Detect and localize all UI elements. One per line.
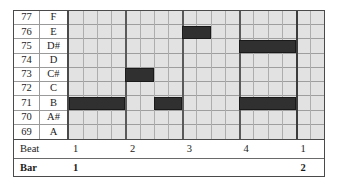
- pitch-row-D: 74D: [14, 54, 67, 68]
- beat-tick-label: 1: [300, 144, 305, 155]
- note-block[interactable]: [125, 68, 153, 81]
- pitch-midi-number: 73: [14, 68, 40, 81]
- grid-line-col-10: [211, 11, 212, 139]
- pitch-row-B: 71B: [14, 96, 67, 110]
- pitch-note-name: A#: [40, 111, 67, 124]
- pitch-row-Asharp: 70A#: [14, 111, 67, 125]
- pitch-midi-number: 77: [14, 11, 40, 24]
- note-block[interactable]: [239, 40, 296, 53]
- pitch-midi-number: 71: [14, 96, 40, 109]
- bar-ruler-row: Bar 12: [14, 158, 324, 177]
- pitch-midi-number: 76: [14, 25, 40, 38]
- note-block[interactable]: [239, 97, 296, 110]
- grid-line-col-12: [239, 11, 241, 139]
- timeline-ruler: Beat 12341 Bar 12: [14, 139, 324, 176]
- grid-line-col-11: [225, 11, 226, 139]
- grid-line-col-3: [111, 11, 112, 139]
- grid-line-col-1: [83, 11, 84, 139]
- pitch-note-name: D#: [40, 39, 67, 52]
- beat-tick-label: 1: [73, 144, 78, 155]
- pitch-midi-number: 70: [14, 111, 40, 124]
- grid-line-col-6: [154, 11, 155, 139]
- grid-line-col-2: [97, 11, 98, 139]
- pitch-note-name: E: [40, 25, 67, 38]
- pitch-midi-number: 74: [14, 54, 40, 67]
- beat-tick-label: 4: [244, 144, 249, 155]
- pitch-note-name: C: [40, 82, 67, 95]
- pitch-note-name: D: [40, 54, 67, 67]
- grid-line-col-15: [282, 11, 283, 139]
- pitch-row-E: 76E: [14, 25, 67, 39]
- pitch-row-F: 77F: [14, 11, 67, 25]
- bar-tick-label: 1: [73, 163, 78, 174]
- pitch-note-name: A: [40, 125, 67, 139]
- piano-roll-figure: 77F76E75D#74D73C#72C71B70A#69A Beat 1234…: [0, 0, 340, 189]
- pitch-row-C: 72C: [14, 82, 67, 96]
- pitch-midi-number: 69: [14, 125, 40, 139]
- grid-line-col-16: [296, 11, 298, 139]
- pitch-midi-number: 72: [14, 82, 40, 95]
- pitch-row-A: 69A: [14, 125, 67, 139]
- grid-line-col-14: [268, 11, 269, 139]
- piano-roll-frame: 77F76E75D#74D73C#72C71B70A#69A Beat 1234…: [13, 10, 325, 177]
- note-block[interactable]: [154, 97, 182, 110]
- beat-tick-label: 3: [187, 144, 192, 155]
- pitch-note-name: C#: [40, 68, 67, 81]
- grid-line-col-7: [168, 11, 169, 139]
- bar-tick-label: 2: [300, 163, 305, 174]
- grid-line-col-13: [253, 11, 254, 139]
- note-block[interactable]: [182, 26, 210, 39]
- pitch-row-Csharp: 73C#: [14, 68, 67, 82]
- bar-row-label: Bar: [20, 163, 37, 174]
- grid-line-col-17: [310, 11, 311, 139]
- beat-row-label: Beat: [20, 144, 39, 155]
- pitch-note-name: F: [40, 11, 67, 24]
- beat-ruler-row: Beat 12341: [14, 140, 324, 158]
- pitch-label-column: 77F76E75D#74D73C#72C71B70A#69A: [14, 11, 67, 139]
- pitch-row-Dsharp: 75D#: [14, 39, 67, 53]
- pitch-midi-number: 75: [14, 39, 40, 52]
- beat-tick-label: 2: [130, 144, 135, 155]
- note-grid[interactable]: [69, 11, 324, 139]
- note-block[interactable]: [69, 97, 126, 110]
- pitch-note-name: B: [40, 96, 67, 109]
